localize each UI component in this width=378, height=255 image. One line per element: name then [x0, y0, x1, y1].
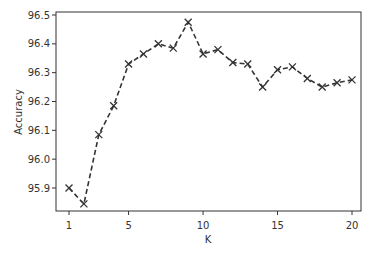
y-tick-label: 96.3 [28, 67, 50, 78]
y-tick-label: 95.9 [28, 183, 50, 194]
y-tick-label: 96.5 [28, 10, 50, 21]
x-tick-label: 20 [346, 220, 359, 231]
x-axis-ticks: 15101520 [66, 211, 359, 231]
x-tick-label: 1 [66, 220, 72, 231]
accuracy-vs-k-chart: 95.996.096.196.296.396.496.5 15101520 K … [0, 0, 378, 255]
x-tick-label: 10 [197, 220, 210, 231]
x-tick-label: 5 [125, 220, 131, 231]
y-tick-label: 96.2 [28, 96, 50, 107]
plot-area [56, 12, 361, 211]
y-tick-label: 96.4 [28, 38, 50, 49]
y-tick-label: 96.1 [28, 125, 50, 136]
x-tick-label: 15 [271, 220, 284, 231]
y-axis-ticks: 95.996.096.196.296.396.496.5 [28, 10, 56, 194]
x-axis-label: K [205, 234, 212, 245]
y-tick-label: 96.0 [28, 154, 50, 165]
y-axis-label: Accuracy [13, 89, 24, 135]
